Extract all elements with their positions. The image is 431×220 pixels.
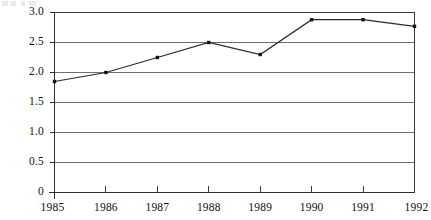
data-point-1986 [104, 71, 107, 74]
data-point-1988 [207, 41, 210, 44]
x-tick-label-1992: 1992 [395, 201, 431, 213]
x-tick-label-1988: 1988 [187, 201, 231, 213]
y-tick-label-3: 3.0 [4, 5, 44, 17]
y-tick-label-2_5: 2.5 [4, 35, 44, 47]
y-tick-label-0: 0 [4, 185, 44, 197]
x-tick-label-1990: 1990 [290, 201, 334, 213]
x-axis-ticks [55, 186, 415, 193]
y-tick-label-0_5: 0.5 [4, 155, 44, 167]
y-tick-label-1_5: 1.5 [4, 95, 44, 107]
data-point-1992 [413, 25, 416, 28]
data-point-1991 [361, 18, 364, 21]
chart-plot-svg [0, 0, 431, 220]
y-axis-ticks [50, 13, 55, 193]
x-tick-label-1985: 1985 [31, 201, 75, 213]
line-chart: 3.02.52.01.51.00.50 19851986198719881989… [0, 0, 431, 220]
y-tick-label-2: 2.0 [4, 65, 44, 77]
x-tick-label-1991: 1991 [341, 201, 385, 213]
x-tick-label-1989: 1989 [238, 201, 282, 213]
gridlines-group [55, 13, 415, 163]
data-series-markers [53, 18, 416, 83]
x-tick-label-1987: 1987 [135, 201, 179, 213]
data-point-1989 [259, 53, 262, 56]
y-tick-label-1: 1.0 [4, 125, 44, 137]
data-point-1987 [156, 56, 159, 59]
data-point-1985 [53, 80, 56, 83]
data-point-1990 [310, 18, 313, 21]
x-tick-label-1986: 1986 [84, 201, 128, 213]
